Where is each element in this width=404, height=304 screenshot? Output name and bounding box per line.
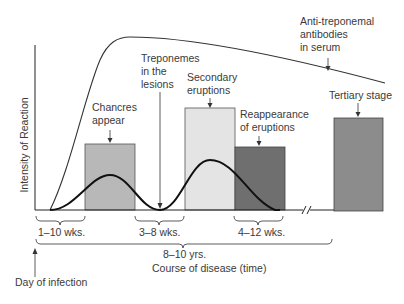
arrowhead-icon — [108, 138, 113, 143]
brace-interval-2 — [135, 216, 184, 225]
brace-interval-3 — [234, 216, 283, 225]
y-axis-label: Intensity of Reaction — [18, 97, 30, 192]
day-of-infection-label: Day of infection — [15, 276, 88, 288]
interval-total-label: 8–10 yrs. — [163, 248, 206, 260]
arrowhead-icon — [356, 112, 361, 117]
syphilis-course-diagram: Intensity of Reaction Anti-treponemalant… — [0, 0, 404, 304]
bar-tertiary — [334, 118, 383, 211]
tertiary-label: Tertiary stage — [329, 89, 392, 101]
chancres-label: Chancresappear — [92, 101, 137, 126]
interval-2-label: 3–8 wks. — [139, 226, 180, 238]
secondary-label: Secondaryeruptions — [187, 71, 238, 96]
arrowhead-icon — [158, 203, 163, 209]
x-axis-label: Course of disease (time) — [152, 262, 266, 274]
bar-chancres — [85, 144, 135, 210]
arrowhead-icon — [208, 103, 213, 108]
arrowhead-icon — [33, 248, 38, 254]
interval-1-label: 1–10 wks. — [38, 226, 85, 238]
brace-total-course — [36, 239, 332, 248]
reappearance-label: Reappearanceof eruptions — [240, 108, 309, 133]
antibodies-label: Anti-treponemalantibodiesin serum — [300, 15, 374, 53]
arrowhead-icon — [257, 141, 262, 146]
interval-3-label: 4–12 wks. — [238, 226, 285, 238]
brace-interval-1 — [36, 216, 85, 225]
